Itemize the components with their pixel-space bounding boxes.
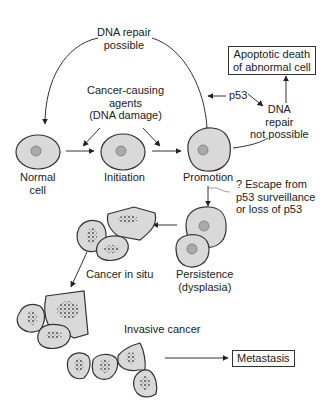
dna-repair-not-possible-label: DNA repair not possible <box>250 103 309 141</box>
label-line: Persistence <box>176 268 233 281</box>
insitu-to-invasive-arrow <box>71 252 87 287</box>
label-line: cell <box>20 184 55 197</box>
agents-arrow-initiation <box>83 128 100 146</box>
carcinogenesis-diagram: DNA repair possible Cancer-causing agent… <box>0 0 328 405</box>
cancer-causing-agents-label: Cancer-causing agents (DNA damage) <box>87 84 164 122</box>
label-line: DNA <box>250 103 309 116</box>
label-line: repair <box>250 116 309 129</box>
escape-leader <box>208 188 230 192</box>
label-line: DNA repair <box>97 26 151 39</box>
apoptotic-death-box: Apoptotic death of abnormal cell <box>228 46 316 75</box>
cancer-in-situ-label: Cancer in situ <box>86 268 153 281</box>
box-line: of abnormal cell <box>233 61 311 74</box>
label-line: not possible <box>250 128 309 141</box>
dna-repair-possible-label: DNA repair possible <box>97 26 151 51</box>
initiation-cell <box>101 134 145 170</box>
normal-cell <box>16 135 60 169</box>
promotion-label: Promotion <box>183 171 233 184</box>
label-line: ? Escape from <box>236 178 316 191</box>
label-line: possible <box>97 39 151 52</box>
label-line: (dysplasia) <box>176 281 233 294</box>
metastasis-box: Metastasis <box>232 350 295 367</box>
box-line: Apoptotic death <box>233 48 311 61</box>
normal-cell-label: Normal cell <box>20 171 55 196</box>
invasive-cancer-label: Invasive cancer <box>124 323 200 336</box>
invasive-single-cells <box>67 343 156 397</box>
persistence-label: Persistence (dysplasia) <box>176 268 233 293</box>
label-line: or loss of p53 <box>236 203 316 216</box>
label-line: p53 surveillance <box>236 191 316 204</box>
invasive-cancer-cluster <box>17 291 88 349</box>
agents-arrow-promotion <box>143 128 160 146</box>
p53-label: p53 <box>229 89 247 102</box>
label-line: Cancer-causing <box>87 84 164 97</box>
cancer-in-situ-cells <box>77 207 156 261</box>
label-line: Normal <box>20 171 55 184</box>
promotion-cell <box>188 128 231 171</box>
label-line: agents <box>87 97 164 110</box>
label-line: (DNA damage) <box>87 109 164 122</box>
persistence-cells <box>176 207 226 267</box>
escape-p53-label: ? Escape from p53 surveillance or loss o… <box>236 178 316 216</box>
initiation-label: Initiation <box>104 171 145 184</box>
